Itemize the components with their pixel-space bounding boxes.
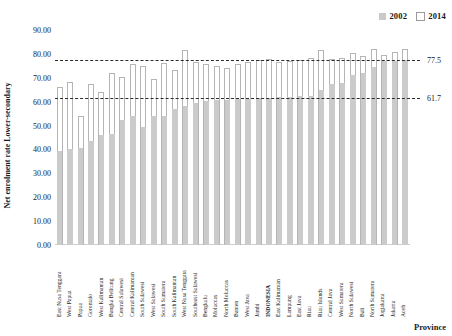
bar-2002[interactable]: [392, 61, 397, 245]
bar-group[interactable]: [77, 30, 84, 245]
bar-2002[interactable]: [120, 120, 125, 245]
x-tick-label: North Sumatera: [369, 281, 375, 317]
bar-group[interactable]: [66, 30, 73, 245]
bar-group[interactable]: [56, 30, 63, 245]
bar-2002[interactable]: [204, 101, 209, 245]
bar-2002[interactable]: [162, 116, 167, 245]
legend-label-2014: 2014: [428, 11, 446, 21]
bar-group-container: [55, 30, 410, 245]
y-tick-label: 50.00: [33, 121, 51, 130]
bar-2002[interactable]: [172, 109, 177, 245]
x-tick-label: East Kalimantan: [275, 279, 281, 317]
bar-group[interactable]: [129, 30, 136, 245]
bar-2002[interactable]: [329, 84, 334, 245]
x-tick-label: South Sumatera: [160, 281, 166, 317]
bar-group[interactable]: [339, 30, 346, 245]
bar-group[interactable]: [87, 30, 94, 245]
bar-2002[interactable]: [245, 99, 250, 245]
bar-group[interactable]: [349, 30, 356, 245]
bar-group[interactable]: [307, 30, 314, 245]
bar-group[interactable]: [360, 30, 367, 245]
y-tick-label: 80.00: [33, 49, 51, 58]
bar-group[interactable]: [224, 30, 231, 245]
bar-2002[interactable]: [109, 134, 114, 245]
legend-label-2002: 2002: [389, 11, 407, 21]
bar-group[interactable]: [370, 30, 377, 245]
bar-group[interactable]: [192, 30, 199, 245]
y-tick-label: 30.00: [33, 169, 51, 178]
bar-group[interactable]: [381, 30, 388, 245]
x-tick-label: Central Kalimantan: [129, 272, 135, 317]
bar-2002[interactable]: [266, 98, 271, 245]
bar-2002[interactable]: [256, 98, 261, 245]
x-tick-label: Bangka Belitung: [108, 278, 114, 317]
bar-2002[interactable]: [99, 135, 104, 245]
x-tick-label: South Kalimantan: [171, 276, 177, 317]
bar-2002[interactable]: [287, 97, 292, 245]
x-tick-label: INDONESIA: [265, 285, 271, 317]
x-tick-label: Riau: [306, 306, 312, 317]
bar-2002[interactable]: [277, 97, 282, 245]
y-tick-label: 0.00: [37, 241, 51, 250]
chart-legend: 2002 2014: [379, 11, 446, 21]
bar-group[interactable]: [328, 30, 335, 245]
bar-2002[interactable]: [193, 103, 198, 245]
bar-2002[interactable]: [183, 106, 188, 245]
x-tick-label: East Nusa Tenggara: [56, 272, 62, 317]
bar-group[interactable]: [265, 30, 272, 245]
bar-group[interactable]: [108, 30, 115, 245]
x-tick-label: North Moluccas: [223, 280, 229, 317]
x-tick-label: Bengkulu: [202, 295, 208, 317]
bar-2002[interactable]: [141, 127, 146, 245]
bar-2002[interactable]: [57, 151, 62, 245]
bar-2002[interactable]: [382, 61, 387, 245]
bar-group[interactable]: [318, 30, 325, 245]
legend-item-2002: 2002: [379, 11, 407, 21]
bar-group[interactable]: [297, 30, 304, 245]
bar-group[interactable]: [286, 30, 293, 245]
bar-group[interactable]: [276, 30, 283, 245]
bar-2002[interactable]: [402, 60, 407, 245]
x-tick-label: West Nusa Tenggara: [181, 270, 187, 317]
x-tick-label: West Sumatera: [338, 283, 344, 317]
bar-group[interactable]: [140, 30, 147, 245]
legend-swatch-2002-icon: [379, 13, 386, 20]
bar-group[interactable]: [119, 30, 126, 245]
plot-area: 77.561.7: [55, 30, 410, 245]
bar-2002[interactable]: [340, 83, 345, 245]
bar-2002[interactable]: [350, 75, 355, 245]
bar-group[interactable]: [244, 30, 251, 245]
x-tick-label: West Java: [244, 294, 250, 317]
bar-2002[interactable]: [88, 141, 93, 245]
x-tick-label: West Papua: [66, 290, 72, 317]
bar-group[interactable]: [98, 30, 105, 245]
reference-line: [55, 98, 420, 99]
bar-2002[interactable]: [235, 99, 240, 245]
bar-2002[interactable]: [67, 149, 72, 245]
y-tick-label: 40.00: [33, 145, 51, 154]
bar-2002[interactable]: [151, 116, 156, 245]
bar-2002[interactable]: [214, 100, 219, 245]
bar-2002[interactable]: [130, 116, 135, 245]
bar-group[interactable]: [161, 30, 168, 245]
bar-group[interactable]: [150, 30, 157, 245]
bar-2002[interactable]: [319, 90, 324, 245]
x-tick-label: Banten: [233, 301, 239, 317]
bar-group[interactable]: [171, 30, 178, 245]
bar-2002[interactable]: [308, 96, 313, 245]
bar-2002[interactable]: [298, 96, 303, 245]
bar-group[interactable]: [213, 30, 220, 245]
y-tick-label: 90.00: [33, 26, 51, 35]
bar-2002[interactable]: [361, 73, 366, 245]
bar-group[interactable]: [255, 30, 262, 245]
x-tick-label: Central Sulawesi: [118, 278, 124, 317]
x-tick-label: West Sulawesi: [150, 284, 156, 317]
bar-group[interactable]: [182, 30, 189, 245]
bar-2002[interactable]: [78, 148, 83, 245]
bar-2002[interactable]: [371, 67, 376, 245]
bar-group[interactable]: [203, 30, 210, 245]
bar-group[interactable]: [391, 30, 398, 245]
bar-group[interactable]: [401, 30, 408, 245]
bar-group[interactable]: [234, 30, 241, 245]
bar-2002[interactable]: [225, 100, 230, 245]
